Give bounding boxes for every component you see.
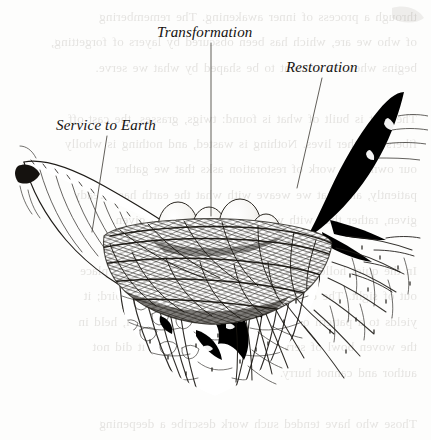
bleedthrough-text: through a process of inner awakening. Th…: [0, 0, 431, 440]
leader-restoration: [297, 78, 322, 188]
nest-fibers: [236, 298, 334, 384]
label-restoration: Restoration: [286, 59, 358, 76]
leader-lines: [0, 0, 431, 440]
page-smudge: [392, 6, 424, 22]
root-fan: [106, 232, 335, 396]
under-nest-shadow: [148, 285, 262, 360]
figure-page: through a process of inner awakening. Th…: [0, 0, 431, 440]
nest-illustration: [0, 0, 431, 440]
black-feather: [308, 92, 428, 292]
label-transformation: Transformation: [157, 24, 252, 41]
right-root-field: [304, 236, 412, 378]
left-feather: [15, 146, 178, 300]
nest-bowl: [94, 209, 344, 336]
eggs: [158, 199, 281, 254]
leader-service: [92, 136, 107, 232]
label-service-to-earth: Service to Earth: [56, 117, 156, 134]
